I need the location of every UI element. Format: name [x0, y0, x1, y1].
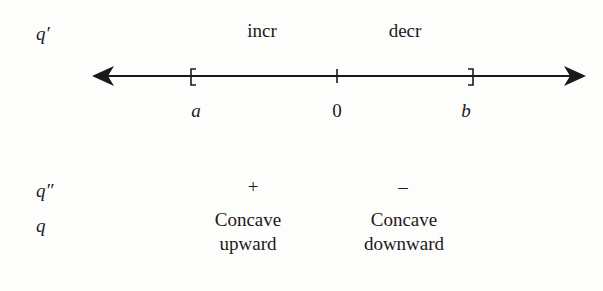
plus-sign: + — [248, 177, 259, 196]
number-line-graphic — [0, 0, 603, 291]
concave-downward-label: Concave downward — [364, 208, 444, 256]
minus-sign: – — [398, 177, 408, 196]
concave-upward-label: Concave upward — [215, 208, 281, 256]
point-b-label: b — [461, 101, 471, 120]
q-label: q — [36, 216, 46, 235]
q-double-prime-label: q″ — [36, 181, 53, 200]
point-a-label: a — [191, 101, 201, 120]
decr-label: decr — [389, 21, 422, 40]
point-zero-label: 0 — [332, 101, 342, 120]
q-prime-label: q′ — [36, 24, 50, 43]
incr-label: incr — [247, 21, 277, 40]
